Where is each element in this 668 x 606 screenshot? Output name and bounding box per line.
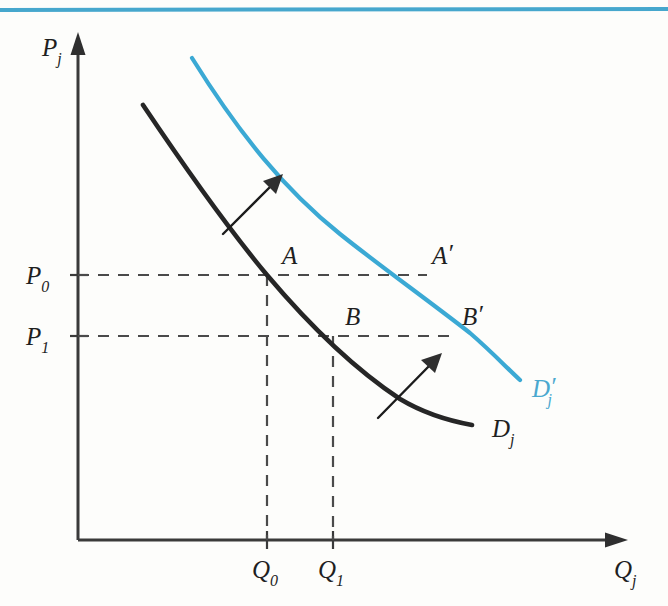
lower-shift-arrow <box>378 353 442 418</box>
point-label-a-prime: A′ <box>430 240 453 269</box>
y-axis-label: Pj <box>41 34 62 68</box>
demand-shift-diagram: Pj Qj P0 P1 Q0 Q1 <box>0 0 668 606</box>
x-tick-label-q0: Q0 <box>252 556 278 589</box>
y-axis-arrowhead <box>71 32 86 55</box>
x-tick-label-q1: Q1 <box>318 556 344 589</box>
curve-demand-dj <box>143 105 472 425</box>
x-axis-arrowhead <box>605 533 628 548</box>
point-label-a: A <box>280 242 298 269</box>
point-label-b-prime: B′ <box>462 301 483 330</box>
x-axis <box>78 533 628 548</box>
curve-label-dj-prime: D′j <box>531 373 556 409</box>
figure-page: Pj Qj P0 P1 Q0 Q1 <box>0 0 668 606</box>
y-tick-label-p0: P0 <box>25 262 49 295</box>
curve-label-dj: Dj <box>491 415 515 449</box>
y-tick-label-p1: P1 <box>25 323 49 356</box>
curve-demand-dj-prime <box>192 58 520 380</box>
y-axis <box>71 32 86 540</box>
top-divider-rule <box>0 9 668 10</box>
x-axis-label: Qj <box>614 556 637 590</box>
upper-shift-arrow <box>223 174 283 234</box>
point-label-b: B <box>345 303 360 330</box>
